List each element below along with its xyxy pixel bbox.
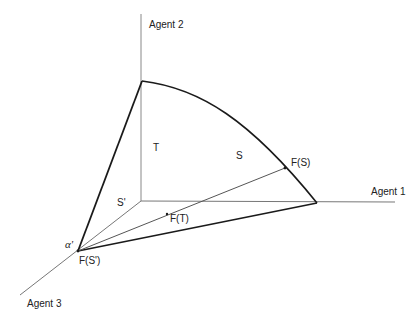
agent1-axis xyxy=(141,201,395,202)
agent3-label: Agent 3 xyxy=(27,298,62,309)
alpha-prime-label: α' xyxy=(65,238,74,250)
F-S-prime-label: F(S') xyxy=(79,255,100,266)
region-T-label: T xyxy=(153,142,159,153)
agent3-axis xyxy=(20,201,141,295)
frontier-curve-S xyxy=(142,81,317,203)
bargaining-diagram: Agent 2 Agent 1 Agent 3 T S S' F(S) F(T)… xyxy=(0,0,419,322)
agent2-label: Agent 2 xyxy=(149,19,184,30)
F-T-label: F(T) xyxy=(170,213,189,224)
point-F-T xyxy=(166,213,168,215)
region-S-prime-label: S' xyxy=(117,197,126,208)
agent1-label: Agent 1 xyxy=(371,186,406,197)
point-F-S-prime xyxy=(77,250,80,253)
edge-alpha-to-corner xyxy=(78,203,317,251)
point-F-S xyxy=(284,167,287,170)
ray-to-F-S xyxy=(78,168,285,251)
F-S-label: F(S) xyxy=(291,157,310,168)
region-S-label: S xyxy=(236,150,243,161)
